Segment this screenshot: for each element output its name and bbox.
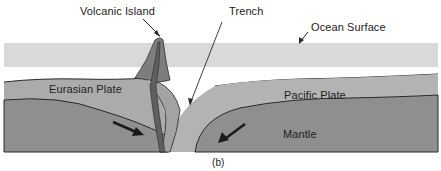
label-ocean-surface: Ocean Surface [311, 21, 386, 33]
label-eurasian-plate: Eurasian Plate [49, 83, 122, 95]
label-pacific-plate: Pacific Plate [284, 89, 346, 101]
label-mantle: Mantle [283, 128, 317, 140]
figure-caption: (b) [212, 157, 225, 168]
ocean [4, 43, 438, 67]
label-trench: Trench [229, 5, 263, 17]
label-volcanic-island: Volcanic Island [80, 5, 155, 17]
